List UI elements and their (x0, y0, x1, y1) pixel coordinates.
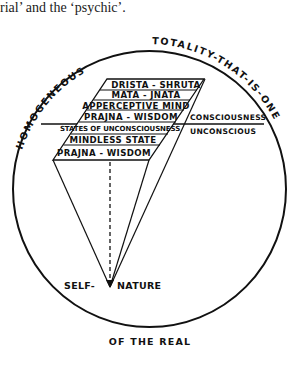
unconscious-label: UNCONSCIOUS (190, 127, 256, 136)
consciousness-label: CONSCIOUSNESS (190, 113, 266, 122)
self-nature-diagram: HOMOGENEOUS TOTALITY-THAT-IS-ONE DRISTA … (0, 0, 293, 365)
row-label: DRISTA - SHRUTA (111, 80, 200, 90)
row-label: STATES OF UNCONSCIOUSNESS (60, 125, 180, 133)
row-label: APPERCEPTIVE MIND (82, 101, 190, 111)
row-label: PRAJNA - WISDOM (57, 148, 151, 158)
nature-label: NATURE (117, 280, 161, 291)
self-label: SELF- (64, 280, 95, 291)
row-label: MINDLESS STATE (69, 135, 156, 145)
row-label: MATA - JNATA (112, 90, 181, 100)
apex-arrowhead (106, 280, 114, 288)
of-the-real-label: OF THE REAL (109, 336, 192, 347)
row-label: PRAJNA - WISDOM (84, 112, 178, 122)
